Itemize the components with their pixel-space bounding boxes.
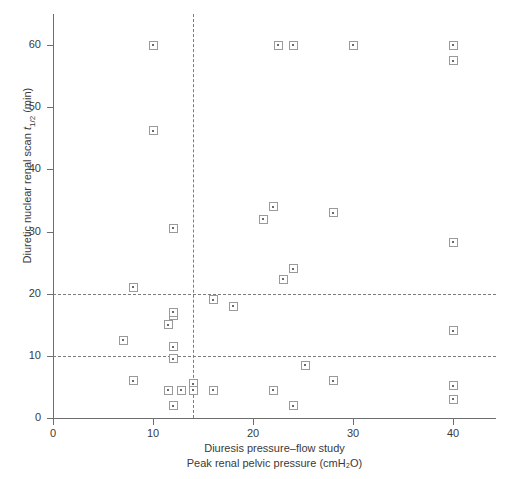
x-tick [453, 419, 454, 425]
x-tick-label: 20 [233, 427, 273, 439]
y-tick-label: 10 [11, 349, 41, 361]
data-point [119, 336, 128, 345]
data-point [329, 376, 338, 385]
data-point [169, 342, 178, 351]
x-tick-label: 10 [133, 427, 173, 439]
data-point [169, 401, 178, 410]
data-point [189, 386, 198, 395]
data-point [164, 320, 173, 329]
data-point [169, 224, 178, 233]
y-tick [47, 232, 53, 233]
horizontal-reference-line [53, 294, 496, 295]
x-tick [253, 419, 254, 425]
data-point [269, 202, 278, 211]
data-point [259, 215, 268, 224]
data-point [449, 238, 458, 247]
y-axis-title-units: (min) [21, 88, 33, 116]
y-axis-line [53, 14, 54, 418]
x-tick-label: 30 [333, 427, 373, 439]
data-point [169, 354, 178, 363]
y-tick [47, 107, 53, 108]
data-point [289, 401, 298, 410]
data-point [209, 386, 218, 395]
data-point [279, 275, 288, 284]
data-point [169, 308, 178, 317]
data-point [229, 302, 238, 311]
x-tick [153, 419, 154, 425]
data-point [449, 395, 458, 404]
x-tick-label: 40 [433, 427, 473, 439]
data-point [349, 41, 358, 50]
x-tick-label: 0 [33, 427, 73, 439]
data-point [129, 283, 138, 292]
scatter-plot-figure: 0102030405060 010203040 Diuretic nuclear… [0, 0, 509, 479]
data-point [289, 41, 298, 50]
data-point [289, 264, 298, 273]
data-point [149, 41, 158, 50]
y-axis-title-prefix: Diuretic nuclear renal scan [21, 130, 33, 263]
x-axis-title-line-1: Diuresis pressure–flow study [53, 441, 496, 456]
data-point [149, 126, 158, 135]
data-point [274, 41, 283, 50]
data-point [129, 376, 138, 385]
horizontal-reference-line [53, 356, 496, 357]
y-tick [47, 45, 53, 46]
data-point [449, 326, 458, 335]
y-axis-title-subscript: 1/2 [28, 116, 37, 127]
y-tick-label: 60 [11, 38, 41, 50]
x-axis-title: Diuresis pressure–flow study Peak renal … [53, 441, 496, 471]
y-axis-title: Diuretic nuclear renal scan t1/2 (min) [21, 56, 36, 296]
y-tick-label: 0 [11, 411, 41, 423]
x-axis-line [53, 418, 496, 419]
data-point [269, 386, 278, 395]
data-point [177, 386, 186, 395]
x-axis-title-line-2: Peak renal pelvic pressure (cmH₂O) [53, 456, 496, 471]
x-tick [53, 419, 54, 425]
data-point [301, 361, 310, 370]
data-point [209, 295, 218, 304]
x-tick [353, 419, 354, 425]
vertical-reference-line [193, 14, 194, 418]
data-point [329, 208, 338, 217]
data-point [449, 41, 458, 50]
y-tick [47, 169, 53, 170]
data-point [449, 56, 458, 65]
y-axis-title-symbol: t [21, 127, 33, 130]
data-point [164, 386, 173, 395]
data-point [449, 381, 458, 390]
